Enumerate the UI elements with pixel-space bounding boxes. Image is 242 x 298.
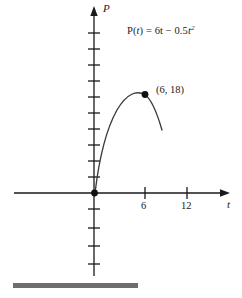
graph-canvas	[0, 0, 242, 298]
horizontal-axis	[14, 189, 230, 196]
origin-point-marker	[91, 190, 98, 197]
vertical-axis	[90, 6, 97, 276]
vertex-point-marker	[142, 91, 149, 98]
bottom-rule-bar	[13, 283, 138, 288]
parabola-curve	[95, 93, 162, 193]
vertical-axis-arrow-icon	[90, 6, 97, 16]
horizontal-axis-arrow-icon	[220, 189, 230, 196]
